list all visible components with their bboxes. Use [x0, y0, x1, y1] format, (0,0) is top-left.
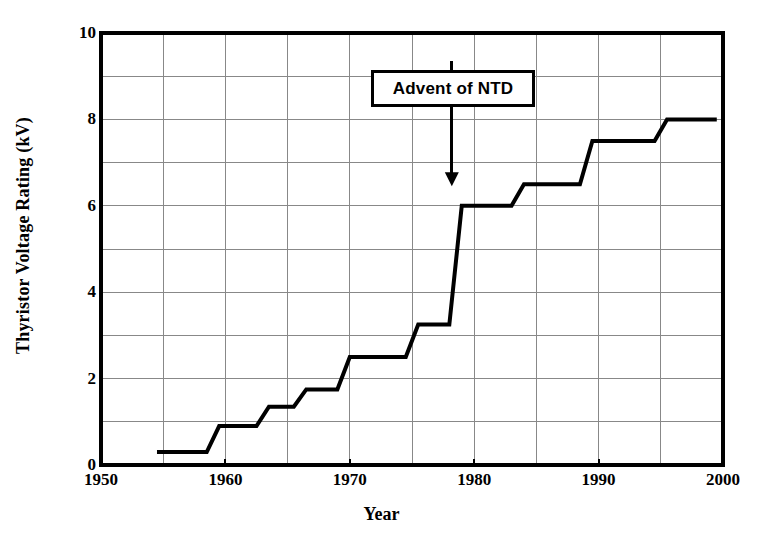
data-series-layer — [157, 119, 717, 452]
chart-figure: Thyristor Voltage Rating (kV) 0 2 4 6 8 … — [0, 0, 763, 546]
annotation-label: Advent of NTD — [393, 79, 514, 99]
annotation-box: Advent of NTD — [371, 70, 535, 107]
annotation-arrow-head — [445, 172, 459, 186]
data-line — [157, 119, 717, 452]
